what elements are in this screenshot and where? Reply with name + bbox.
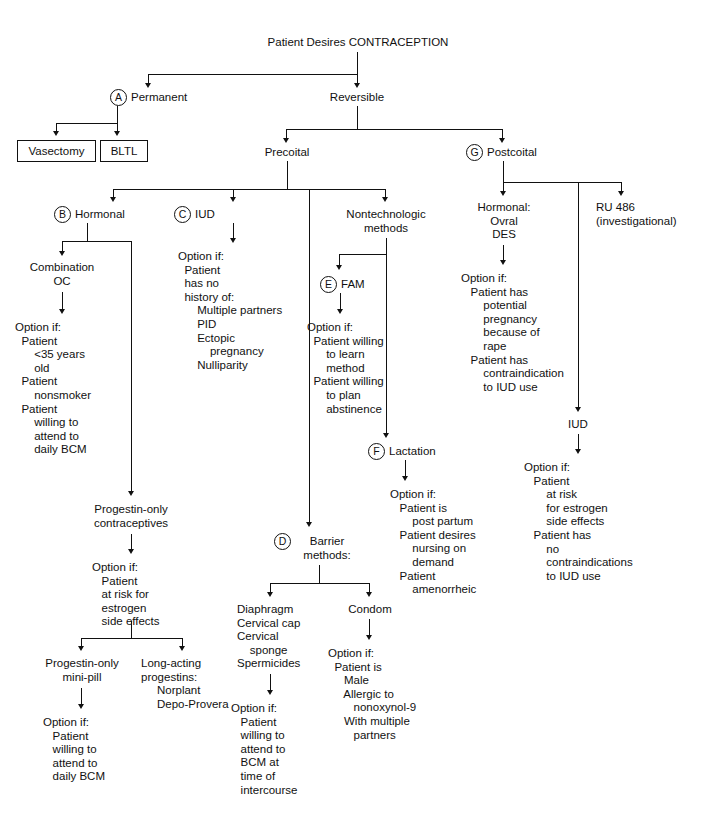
connector-post-iud-stem <box>578 434 579 450</box>
node-iud: IUD <box>195 208 245 222</box>
arrow-fam-option <box>337 309 343 314</box>
node-lactation: Lactation <box>389 445 459 459</box>
connector-mini-pill-stem <box>81 688 82 705</box>
arrow-to-long-acting <box>179 646 185 651</box>
flowchart-canvas: Patient Desires CONTRACEPTION A Permanen… <box>0 0 711 823</box>
connector-condom-stem <box>369 619 370 636</box>
node-progestin-only: Progestin-only contraceptives <box>78 503 184 530</box>
connector-iud-stem <box>233 223 234 239</box>
node-hormonal: Hormonal <box>75 208 155 222</box>
connector-nontech-bar <box>339 254 387 255</box>
arrow-to-iud <box>230 197 236 202</box>
node-bltl: BLTL <box>100 140 148 162</box>
arrow-to-precoital <box>283 138 289 143</box>
connector-fam-stem <box>340 293 341 310</box>
node-post-iud: IUD <box>553 418 603 432</box>
arrow-progestin-option <box>128 549 134 554</box>
node-postcoital: Postcoital <box>487 146 567 160</box>
arrow-to-progestin <box>128 491 134 496</box>
arrow-to-mini-pill <box>78 646 84 651</box>
connector-post-hormonal-stem <box>503 245 504 261</box>
node-ru486: RU 486 (investigational) <box>596 201 706 228</box>
arrow-condom-option <box>366 635 372 640</box>
connector-barrier-list-stem <box>270 674 271 691</box>
connector-root-bar <box>148 74 358 75</box>
connector-combo-oc-stem <box>62 292 63 310</box>
arrow-to-barrier-list <box>267 592 273 597</box>
node-progestin-option: Option if: Patient at risk for estrogen … <box>92 561 192 629</box>
node-nontechnologic: Nontechnologic methods <box>340 208 432 235</box>
connector-hormonal-bar <box>62 241 132 242</box>
arrow-to-vasectomy <box>53 131 59 136</box>
arrow-barrier-option <box>267 690 273 695</box>
connector-barrier-stem <box>319 565 320 583</box>
arrow-to-combo-oc <box>59 251 65 256</box>
connector-progestin-stem <box>131 534 132 550</box>
arrow-to-nontechnologic <box>382 197 388 202</box>
connector-reversible-bar <box>286 129 502 130</box>
arrow-to-hormonal <box>110 197 116 202</box>
connector-lactation-stem <box>405 460 406 477</box>
connector-progestin-split-bar <box>81 638 182 639</box>
node-fam: FAM <box>341 278 387 292</box>
arrow-to-permanent <box>145 83 151 88</box>
connector-postcoital-stem <box>503 161 504 182</box>
node-condom: Condom <box>341 603 399 617</box>
node-precoital: Precoital <box>251 146 323 160</box>
node-vasectomy: Vasectomy <box>17 140 96 162</box>
arrow-to-bltl <box>114 131 120 136</box>
marker-b: B <box>54 206 71 223</box>
node-barrier: Barrier methods: <box>290 535 364 562</box>
connector-root-stem <box>357 52 358 74</box>
node-combination-oc: Combination OC <box>22 261 102 288</box>
arrow-to-condom <box>366 592 372 597</box>
arrow-to-post-hormonal <box>500 191 506 196</box>
marker-a: A <box>110 89 127 106</box>
connector-permanent-stem <box>117 106 118 123</box>
connector-barrier-bar <box>270 583 369 584</box>
arrow-to-ru486 <box>618 191 624 196</box>
marker-c: C <box>174 206 191 223</box>
connector-precoital-bar <box>113 189 385 190</box>
node-mini-pill: Progestin-only mini-pill <box>29 657 135 684</box>
node-reversible: Reversible <box>312 91 402 105</box>
connector-postcoital-bar <box>503 182 621 183</box>
arrow-lactation-option <box>402 476 408 481</box>
node-mini-pill-option: Option if: Patient willing to attend to … <box>43 716 143 784</box>
arrow-post-iud-option <box>575 449 581 454</box>
arrow-iud-option <box>230 238 236 243</box>
connector-progestin-split-stem <box>131 621 132 638</box>
node-combination-oc-option: Option if: Patient <35 years old Patient… <box>15 321 125 457</box>
connector-nontech-stem <box>386 238 387 254</box>
node-post-hormonal: Hormonal: Ovral DES <box>470 201 538 242</box>
node-iud-option: Option if: Patient has no history of: Mu… <box>178 250 308 372</box>
node-post-hormonal-option: Option if: Patient has potential pregnan… <box>461 272 581 394</box>
arrow-combo-option <box>59 309 65 314</box>
arrow-to-reversible <box>354 83 360 88</box>
node-root: Patient Desires CONTRACEPTION <box>253 36 463 50</box>
arrow-to-fam <box>336 265 342 270</box>
arrow-to-postcoital <box>499 138 505 143</box>
arrow-to-barrier <box>306 522 312 527</box>
node-lactation-option: Option if: Patient is post partum Patien… <box>390 488 500 597</box>
connector-hormonal-stem <box>87 223 88 241</box>
node-post-iud-option: Option if: Patient at risk for estrogen … <box>524 461 654 583</box>
arrow-post-hormonal-option <box>500 260 506 265</box>
marker-d: D <box>274 533 291 550</box>
connector-reversible-stem <box>357 106 358 129</box>
node-fam-option: Option if: Patient willing to learn meth… <box>307 321 417 416</box>
marker-e: E <box>320 276 337 293</box>
marker-g: G <box>466 144 483 161</box>
marker-f: F <box>368 443 385 460</box>
node-permanent: Permanent <box>131 91 211 105</box>
node-condom-option: Option if: Patient is Male Allergic to n… <box>328 647 448 742</box>
connector-to-progestin-long <box>131 241 132 492</box>
connector-permanent-bar <box>56 123 118 124</box>
arrow-mini-pill-option <box>78 704 84 709</box>
node-barrier-option: Option if: Patient willing to attend to … <box>231 702 331 797</box>
arrow-to-lactation <box>383 433 389 438</box>
arrow-to-post-iud <box>575 407 581 412</box>
connector-precoital-stem <box>287 161 288 189</box>
